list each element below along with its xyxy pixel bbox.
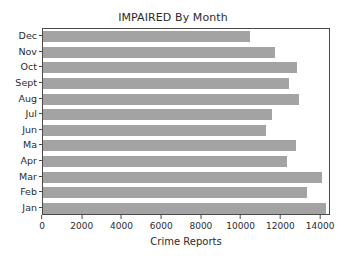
bar-aug bbox=[43, 94, 330, 105]
x-tick-10000: 10000 bbox=[226, 215, 255, 231]
y-tick-aug: Aug bbox=[18, 93, 42, 104]
bar-dec bbox=[43, 31, 330, 42]
x-tick-14000: 14000 bbox=[306, 215, 335, 231]
bar-apr bbox=[43, 156, 330, 167]
bar-oct bbox=[43, 62, 330, 73]
bars-layer bbox=[43, 29, 329, 214]
x-tick-mark bbox=[41, 215, 42, 219]
bar-rect bbox=[43, 94, 299, 105]
chart-screenshot: IMPAIRED By Month DecNovOctSeptAugJulJun… bbox=[0, 0, 346, 261]
bar-rect bbox=[43, 47, 275, 58]
y-tick-jun: Jun bbox=[22, 124, 42, 135]
bar-ma bbox=[43, 140, 330, 151]
x-tick-mark bbox=[121, 215, 122, 219]
bar-rect bbox=[43, 187, 307, 198]
bar-rect bbox=[43, 140, 296, 151]
x-tick-mark bbox=[81, 215, 82, 219]
x-tick-8000: 8000 bbox=[189, 215, 212, 231]
x-tick-mark bbox=[240, 215, 241, 219]
x-tick-label: 0 bbox=[39, 221, 45, 231]
x-axis: 02000400060008000100001200014000 bbox=[42, 215, 330, 235]
x-tick-label: 14000 bbox=[306, 221, 335, 231]
x-tick-6000: 6000 bbox=[150, 215, 173, 231]
bar-rect bbox=[43, 172, 322, 183]
bar-jan bbox=[43, 203, 330, 214]
x-tick-4000: 4000 bbox=[110, 215, 133, 231]
x-tick-mark bbox=[200, 215, 201, 219]
x-tick-mark bbox=[320, 215, 321, 219]
bar-sept bbox=[43, 78, 330, 89]
y-tick-jan: Jan bbox=[22, 202, 42, 213]
y-tick-apr: Apr bbox=[21, 155, 42, 166]
y-tick-ma: Ma bbox=[23, 139, 42, 150]
x-tick-2000: 2000 bbox=[70, 215, 93, 231]
x-tick-mark bbox=[280, 215, 281, 219]
y-tick-dec: Dec bbox=[19, 30, 42, 41]
x-tick-label: 12000 bbox=[266, 221, 295, 231]
y-tick-mar: Mar bbox=[19, 171, 42, 182]
bar-rect bbox=[43, 156, 287, 167]
x-axis-label: Crime Reports bbox=[42, 236, 330, 247]
bar-mar bbox=[43, 172, 330, 183]
x-tick-12000: 12000 bbox=[266, 215, 295, 231]
bar-rect bbox=[43, 109, 272, 120]
bar-rect bbox=[43, 203, 326, 214]
bar-rect bbox=[43, 78, 289, 89]
bar-rect bbox=[43, 125, 266, 136]
bar-feb bbox=[43, 187, 330, 198]
bar-rect bbox=[43, 62, 297, 73]
chart-title: IMPAIRED By Month bbox=[0, 11, 346, 24]
bar-jun bbox=[43, 125, 330, 136]
y-tick-jul: Jul bbox=[26, 108, 42, 119]
x-tick-label: 4000 bbox=[110, 221, 133, 231]
x-tick-0: 0 bbox=[39, 215, 45, 231]
y-axis: DecNovOctSeptAugJulJunMaAprMarFebJan bbox=[0, 28, 42, 215]
x-tick-label: 8000 bbox=[189, 221, 212, 231]
x-tick-mark bbox=[161, 215, 162, 219]
x-tick-label: 10000 bbox=[226, 221, 255, 231]
bar-rect bbox=[43, 31, 250, 42]
y-tick-feb: Feb bbox=[20, 186, 42, 197]
y-tick-sept: Sept bbox=[15, 77, 42, 88]
y-tick-oct: Oct bbox=[21, 61, 42, 72]
bar-nov bbox=[43, 47, 330, 58]
y-tick-nov: Nov bbox=[18, 46, 42, 57]
x-tick-label: 6000 bbox=[150, 221, 173, 231]
x-tick-label: 2000 bbox=[70, 221, 93, 231]
plot-area bbox=[42, 28, 330, 215]
bar-jul bbox=[43, 109, 330, 120]
